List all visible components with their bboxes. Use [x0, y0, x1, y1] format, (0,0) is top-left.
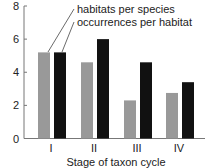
y-tick-label: 6 [13, 33, 19, 45]
bar [81, 62, 93, 138]
y-tick-label: 4 [13, 66, 19, 78]
legend-label: habitats per species [77, 3, 175, 15]
legend-label: occurrences per habitat [77, 16, 192, 28]
x-tick-label: I [49, 142, 52, 154]
leader-line [48, 9, 74, 52]
bar [38, 52, 50, 138]
labels: IIIIIIIVStage of taxon cyclehabitats per… [48, 3, 192, 168]
bar [54, 52, 66, 138]
bars [38, 39, 194, 138]
y-tick-label: 8 [13, 0, 19, 12]
bar [140, 62, 152, 138]
bar [182, 82, 194, 138]
x-tick-label: IV [174, 142, 185, 154]
bar-chart: 02468 IIIIIIIVStage of taxon cyclehabita… [0, 0, 214, 168]
y-tick-label: 0 [13, 133, 19, 145]
y-tick-label: 2 [13, 99, 19, 111]
bar [124, 100, 136, 138]
x-tick-label: III [132, 142, 141, 154]
x-axis-label: Stage of taxon cycle [66, 156, 165, 168]
bar [166, 93, 178, 139]
bar [97, 39, 109, 138]
x-tick-label: II [91, 142, 97, 154]
